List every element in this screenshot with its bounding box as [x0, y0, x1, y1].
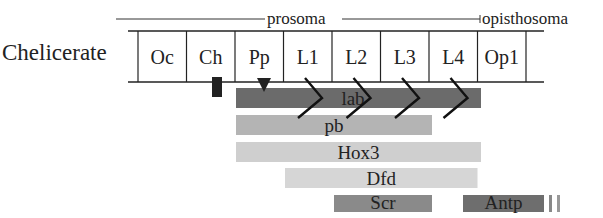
organism-label: Chelicerate — [2, 40, 107, 65]
gene-label-scr: Scr — [370, 192, 396, 213]
segment-label-l1: L1 — [297, 46, 319, 68]
segment-label-ch: Ch — [199, 46, 222, 68]
segment-label-l3: L3 — [394, 46, 416, 68]
gene-label-pb: pb — [325, 115, 344, 136]
segment-label-l4: L4 — [442, 46, 464, 68]
hox-expression-diagram: prosoma opisthosoma Chelicerate OcChPpL1… — [0, 0, 603, 218]
prosoma-label: prosoma — [267, 9, 326, 28]
gene-label-antp: Antp — [485, 192, 523, 213]
ch-marker-bar — [212, 77, 222, 97]
segment-label-op1: Op1 — [485, 46, 519, 69]
segment-label-l2: L2 — [345, 46, 367, 68]
antp-tick-1 — [549, 195, 552, 212]
segment-label-pp: Pp — [249, 46, 270, 69]
segment-label-oc: Oc — [151, 46, 174, 68]
gene-label-dfd: Dfd — [366, 168, 396, 189]
antp-tick-2 — [557, 195, 560, 212]
gene-label-hox3: Hox3 — [337, 142, 379, 163]
opisthosoma-label: opisthosoma — [482, 9, 568, 28]
